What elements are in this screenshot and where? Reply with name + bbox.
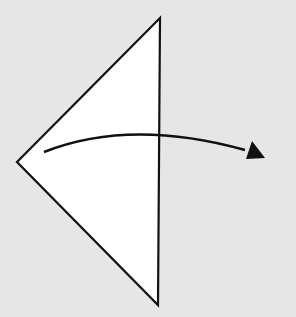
arrowhead-icon (246, 141, 265, 159)
origami-diagram (0, 0, 296, 317)
paper-triangle (17, 18, 160, 305)
diagram-svg (0, 0, 296, 317)
